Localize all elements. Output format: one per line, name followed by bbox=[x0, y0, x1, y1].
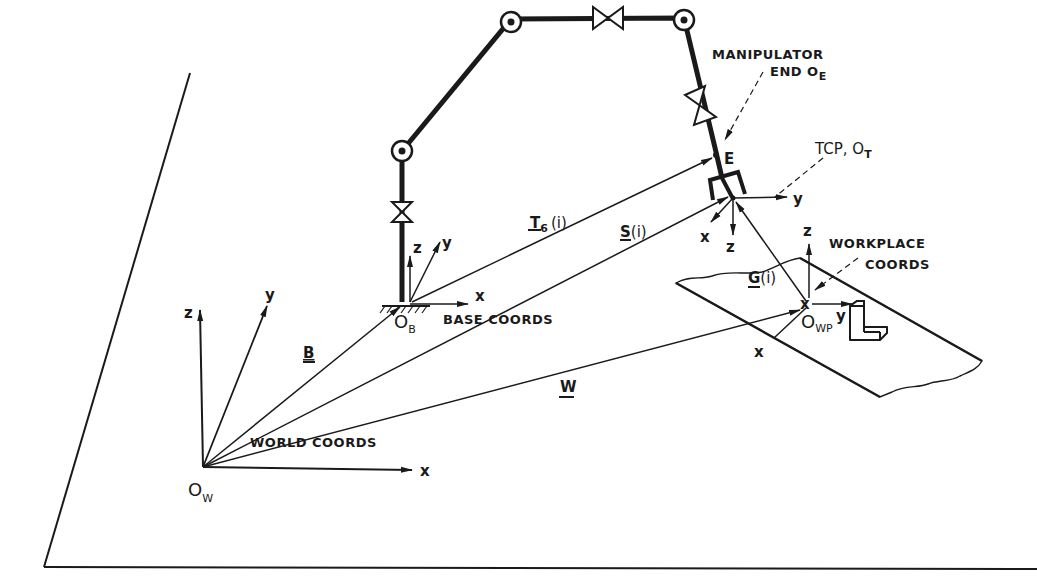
vector-S-label: S(i) bbox=[620, 223, 647, 241]
prismatic-joint-3 bbox=[685, 86, 716, 125]
gripper bbox=[710, 172, 745, 200]
end-point-label: E bbox=[724, 150, 734, 168]
base-z-label: z bbox=[413, 239, 422, 257]
workplace-y-label: y bbox=[836, 307, 846, 325]
joint-2 bbox=[501, 12, 521, 32]
vector-T6-label: T6(i) bbox=[530, 214, 567, 235]
joint-3 bbox=[674, 10, 694, 30]
world-z-axis bbox=[200, 310, 203, 467]
workpiece bbox=[850, 301, 887, 340]
prismatic-joint-1 bbox=[392, 202, 412, 222]
base-coords-caption: BASE COORDS bbox=[443, 312, 553, 327]
prismatic-joint-2 bbox=[593, 7, 623, 29]
diagram-canvas: z y x OW WORLD COORDS B S(i) W bbox=[0, 0, 1037, 587]
vector-S: S(i) bbox=[203, 197, 728, 467]
end-point-E bbox=[713, 152, 719, 158]
workplace-caption-1: WORKPLACE bbox=[829, 236, 925, 251]
svg-text:MANIPULATOR: MANIPULATOR bbox=[712, 47, 824, 62]
workplace-x-label: x bbox=[754, 343, 764, 361]
base-x-label: x bbox=[475, 287, 485, 305]
world-y-label: y bbox=[265, 286, 275, 304]
vector-T6: T6(i) bbox=[412, 158, 712, 302]
world-x-label: x bbox=[420, 462, 430, 480]
manipulator-arm: E bbox=[392, 7, 745, 302]
vector-W-label: W bbox=[560, 378, 577, 396]
world-origin-label: OW bbox=[188, 479, 213, 505]
tcp-y-label: y bbox=[793, 190, 803, 208]
tcp-x-axis bbox=[711, 198, 733, 222]
base-origin-label: OB bbox=[394, 311, 416, 336]
tcp-y-axis bbox=[733, 197, 787, 198]
vector-G-label: G(i) bbox=[748, 269, 776, 287]
base-y-label: y bbox=[442, 234, 452, 252]
vector-G: G(i) bbox=[736, 202, 806, 301]
vector-W: W bbox=[203, 310, 800, 467]
workplace-origin-label: OWP bbox=[801, 311, 833, 335]
workplace-z-label: z bbox=[803, 222, 812, 240]
joint-1 bbox=[392, 141, 412, 161]
workplace-caption-2: COORDS bbox=[865, 257, 930, 272]
svg-text:END OE: END OE bbox=[770, 64, 827, 83]
tcp-x-label: x bbox=[700, 228, 710, 246]
vector-B-label: B bbox=[303, 344, 314, 362]
manipulator-end-caption: MANIPULATOR END OE bbox=[712, 47, 827, 140]
base-frame: z y x OB BASE COORDS bbox=[380, 234, 553, 336]
tcp-z-label: z bbox=[726, 238, 735, 256]
world-z-label: z bbox=[184, 304, 193, 322]
world-x-axis bbox=[203, 467, 412, 470]
